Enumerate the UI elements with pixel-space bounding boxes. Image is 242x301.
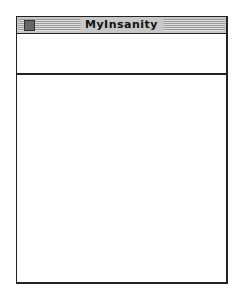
app-window: MyInsanity bbox=[16, 16, 228, 284]
title-bar[interactable]: MyInsanity bbox=[17, 17, 226, 34]
window-title: MyInsanity bbox=[80, 17, 163, 32]
close-box-icon[interactable] bbox=[24, 20, 35, 31]
header-pane bbox=[17, 34, 226, 75]
content-pane bbox=[17, 75, 226, 282]
